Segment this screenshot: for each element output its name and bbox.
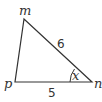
side-label-pn: 5 (48, 86, 56, 100)
vertex-label-p: p (4, 76, 13, 91)
angle-label-x: x (72, 68, 80, 83)
vertex-label-n: n (94, 76, 102, 91)
triangle-mpn (15, 19, 92, 82)
triangle-diagram: m p n 6 5 x (0, 0, 102, 102)
vertex-label-m: m (19, 3, 31, 18)
side-label-mn: 6 (57, 37, 65, 51)
